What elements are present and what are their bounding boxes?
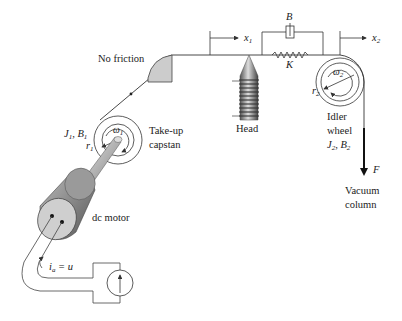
- tape: [100, 55, 364, 128]
- label-j2-b2: J2, B2: [327, 140, 350, 152]
- x1-arrow: [210, 31, 238, 55]
- no-friction-guide: [148, 55, 172, 82]
- label-spring-k: K: [286, 60, 293, 71]
- label-x1: x1: [244, 33, 252, 45]
- label-dc-motor: dc motor: [92, 213, 130, 224]
- label-omega2: ω2: [333, 68, 343, 79]
- label-j1-b1: J1, B1: [64, 129, 87, 141]
- label-force: F: [373, 165, 379, 176]
- label-idler-line1: Idler: [327, 112, 347, 123]
- head: [232, 55, 259, 120]
- label-current: ia = u: [49, 262, 73, 274]
- tape-drive-diagram: No friction x1 B K x2 ω2 r2 Head Idler w…: [0, 0, 402, 321]
- label-damper-b: B: [286, 12, 292, 23]
- label-no-friction: No friction: [98, 54, 144, 65]
- spring-damper: [262, 23, 323, 58]
- tape-dot: [130, 93, 133, 96]
- label-r2: r2: [312, 86, 320, 98]
- label-takeup-line2: capstan: [149, 140, 181, 151]
- x2-arrow: [340, 31, 366, 55]
- label-omega1: ω1: [113, 126, 123, 137]
- label-head: Head: [236, 124, 258, 135]
- label-takeup-line1: Take-up: [149, 126, 183, 137]
- current-source: [107, 270, 133, 296]
- label-r1: r1: [86, 141, 94, 153]
- label-idler-line2: wheel: [327, 126, 352, 137]
- label-vacuum-line1: Vacuum: [345, 186, 379, 197]
- label-vacuum-line2: column: [345, 200, 377, 211]
- idler-wheel: [316, 58, 364, 106]
- label-x2: x2: [372, 33, 380, 45]
